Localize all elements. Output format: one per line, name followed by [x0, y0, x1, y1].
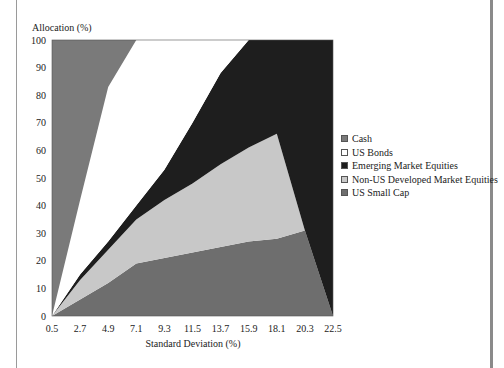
- x-tick-label: 20.3: [296, 323, 314, 334]
- y-tick-label: 90: [36, 62, 46, 73]
- legend: Cash US Bonds Emerging Market Equities N…: [341, 132, 498, 200]
- legend-label: US Bonds: [352, 146, 393, 160]
- y-tick-label: 0: [41, 311, 46, 322]
- x-tick-label: 4.9: [102, 323, 115, 334]
- legend-item-us-bonds: US Bonds: [341, 146, 498, 160]
- legend-swatch-icon: [341, 149, 348, 156]
- y-tick-label: 80: [36, 90, 46, 101]
- legend-swatch-icon: [341, 189, 348, 196]
- x-tick-label: 9.3: [158, 323, 171, 334]
- legend-label: Emerging Market Equities: [352, 159, 458, 173]
- legend-label: Cash: [352, 132, 372, 146]
- x-axis: 0.52.74.97.19.311.513.715.918.120.322.5: [46, 323, 342, 334]
- legend-swatch-icon: [341, 135, 348, 142]
- x-tick-label: 11.5: [184, 323, 201, 334]
- y-tick-label: 60: [36, 145, 46, 156]
- legend-item-cash: Cash: [341, 132, 498, 146]
- legend-swatch-icon: [341, 162, 348, 169]
- y-tick-label: 20: [36, 255, 46, 266]
- legend-swatch-icon: [341, 176, 348, 183]
- y-tick-label: 40: [36, 200, 46, 211]
- legend-item-emerging-market-equities: Emerging Market Equities: [341, 159, 498, 173]
- legend-item-non-us-developed: Non-US Developed Market Equities: [341, 173, 498, 187]
- x-tick-label: 7.1: [130, 323, 143, 334]
- x-tick-label: 2.7: [74, 323, 87, 334]
- y-tick-label: 70: [36, 117, 46, 128]
- legend-label: US Small Cap: [352, 186, 409, 200]
- legend-label: Non-US Developed Market Equities: [352, 173, 498, 187]
- y-tick-label: 100: [31, 35, 46, 46]
- legend-item-us-small-cap: US Small Cap: [341, 186, 498, 200]
- plot-area: [52, 40, 333, 316]
- x-tick-label: 13.7: [212, 323, 230, 334]
- x-tick-label: 15.9: [240, 323, 258, 334]
- y-tick-label: 50: [36, 173, 46, 184]
- y-tick-label: 30: [36, 228, 46, 239]
- x-tick-label: 22.5: [324, 323, 342, 334]
- x-tick-label: 0.5: [46, 323, 59, 334]
- y-tick-label: 10: [36, 283, 46, 294]
- x-tick-label: 18.1: [268, 323, 286, 334]
- y-axis: 0102030405060708090100: [31, 35, 46, 322]
- x-axis-title: Standard Deviation (%): [0, 338, 386, 349]
